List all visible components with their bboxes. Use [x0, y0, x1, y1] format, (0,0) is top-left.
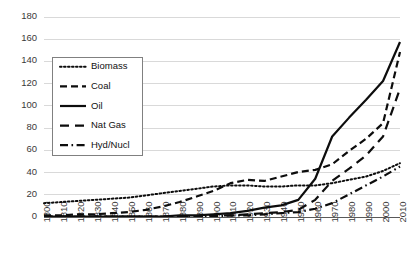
y-tick-label: 60	[26, 143, 37, 154]
x-tick-label: 1810	[58, 201, 69, 222]
legend-label: Oil	[91, 100, 103, 111]
y-tick-label: 180	[21, 10, 37, 21]
y-tick-label: 20	[26, 188, 37, 199]
y-tick-label: 0	[32, 210, 37, 221]
chart-canvas: 020406080100120140160180 180018101820183…	[0, 0, 411, 264]
legend-label: Hyd/Nucl	[91, 139, 130, 150]
y-axis-tick-labels: 020406080100120140160180	[21, 10, 37, 221]
x-tick-label: 1890	[194, 201, 205, 222]
legend-label: Biomass	[91, 60, 128, 71]
x-tick-label: 1900	[211, 201, 222, 222]
y-tick-label: 160	[21, 32, 37, 43]
x-tick-label: 1800	[41, 201, 52, 222]
energy-consumption-chart: 020406080100120140160180 180018101820183…	[0, 0, 411, 264]
y-tick-label: 40	[26, 166, 37, 177]
y-tick-label: 80	[26, 121, 37, 132]
x-tick-label: 2000	[380, 201, 391, 222]
series-line-biomass	[44, 163, 400, 203]
x-tick-label: 1960	[312, 201, 323, 222]
x-tick-label: 1880	[177, 201, 188, 222]
legend-label: Coal	[91, 80, 111, 91]
x-tick-label: 1990	[363, 201, 374, 222]
y-tick-label: 120	[21, 77, 37, 88]
x-tick-label: 1820	[75, 201, 86, 222]
x-tick-label: 2010	[397, 201, 408, 222]
chart-legend: BiomassCoalOilNat GasHyd/Nucl	[53, 58, 143, 156]
legend-label: Nat Gas	[91, 119, 126, 130]
x-tick-label: 1980	[346, 201, 357, 222]
x-tick-label: 1830	[92, 201, 103, 222]
y-tick-label: 100	[21, 99, 37, 110]
x-tick-label: 1860	[143, 201, 154, 222]
y-tick-label: 140	[21, 54, 37, 65]
x-axis-tick-labels: 1800181018201830184018501860187018801890…	[41, 201, 408, 222]
